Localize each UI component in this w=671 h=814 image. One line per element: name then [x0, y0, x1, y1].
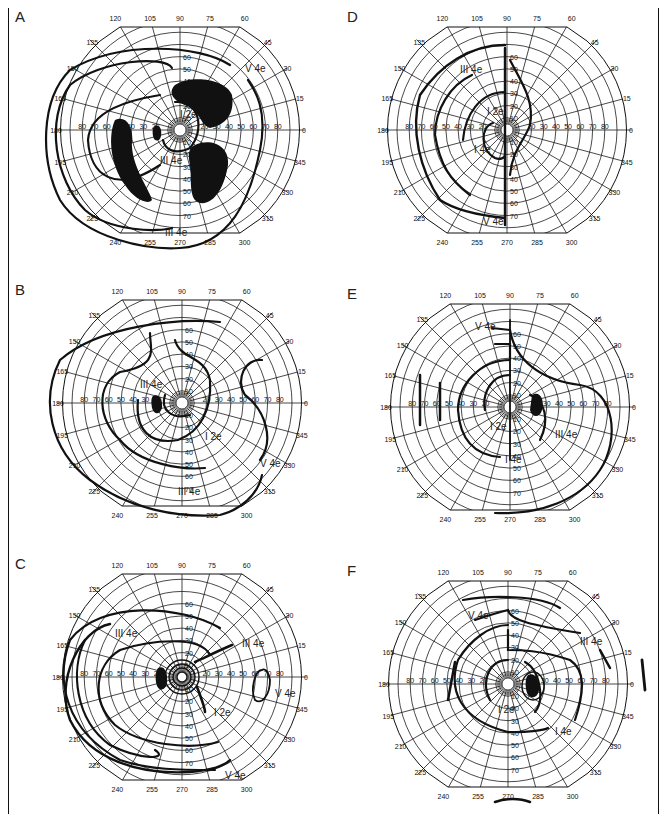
angle-label: 90 — [178, 288, 186, 295]
radial-label: 70 — [421, 400, 429, 407]
radial-label: 60 — [511, 608, 519, 615]
radial-label: 10 — [510, 139, 518, 146]
isopter-label: III 4e — [460, 64, 483, 75]
angle-label: 0 — [632, 404, 636, 411]
angle-label: 135 — [413, 39, 425, 46]
radial-label: 60 — [579, 400, 587, 407]
angle-label: 255 — [474, 516, 486, 523]
angle-label: 150 — [394, 65, 406, 72]
isopter-curve — [495, 799, 530, 802]
angle-label: 105 — [144, 15, 156, 22]
radial-label: 10 — [183, 139, 191, 146]
angle-label: 90 — [176, 15, 184, 22]
radial-label: 50 — [567, 400, 575, 407]
angle-label: 120 — [437, 569, 449, 576]
radial-label: 50 — [183, 188, 191, 195]
radial-label: 30 — [540, 123, 548, 130]
radial-label: 60 — [105, 670, 113, 677]
radial-label: 70 — [419, 677, 427, 684]
radial-label: 40 — [553, 677, 561, 684]
radial-label: 50 — [443, 677, 451, 684]
angle-label: 90 — [506, 292, 514, 299]
radial-label: 60 — [185, 327, 193, 334]
panel-b: 0153045607590105120135150165180195210225… — [52, 273, 312, 533]
angle-label: 330 — [612, 466, 624, 473]
radial-label: 60 — [510, 54, 518, 61]
radial-label: 70 — [590, 677, 598, 684]
angle-label: 45 — [591, 39, 599, 46]
angle-label: 300 — [569, 516, 581, 523]
radial-label: 40 — [225, 123, 233, 130]
radial-label: 80 — [276, 396, 284, 403]
angle-label: 240 — [437, 793, 449, 800]
radial-label: 20 — [513, 428, 521, 435]
radial-label: 20 — [203, 670, 211, 677]
radial-label: 60 — [249, 123, 257, 130]
angle-label: 270 — [176, 786, 188, 793]
angle-label: 15 — [296, 95, 304, 102]
angle-label: 75 — [208, 562, 216, 569]
angle-label: 165 — [382, 649, 394, 656]
radial-label: 70 — [418, 123, 426, 130]
radial-label: 50 — [513, 465, 521, 472]
radial-label: 40 — [455, 677, 463, 684]
isopter-label: III 4e — [242, 638, 265, 649]
isopter-label: III 4e — [580, 636, 603, 647]
angle-label: 15 — [298, 642, 306, 649]
radial-label: 30 — [513, 441, 521, 448]
angle-label: 180 — [52, 400, 64, 407]
radial-label: 50 — [565, 677, 573, 684]
charts-canvas: 0153045607590105120135150165180195210225… — [0, 0, 671, 814]
angle-label: 255 — [471, 239, 483, 246]
radial-label: 80 — [274, 123, 282, 130]
angle-label: 345 — [621, 159, 633, 166]
right-frame-border — [658, 8, 659, 814]
radial-label: 80 — [80, 396, 88, 403]
angle-label: 60 — [568, 15, 576, 22]
radial-label: 40 — [510, 78, 518, 85]
angle-label: 30 — [610, 65, 618, 72]
radial-label: 40 — [129, 670, 137, 677]
scotoma — [153, 126, 162, 141]
isopter-label: III 4e — [160, 155, 183, 166]
radial-label: 80 — [602, 677, 610, 684]
radial-label: 50 — [510, 188, 518, 195]
angle-label: 120 — [436, 15, 448, 22]
angle-label: 300 — [241, 512, 253, 519]
angle-label: 330 — [284, 462, 296, 469]
angle-label: 90 — [503, 15, 511, 22]
radial-label: 30 — [466, 123, 474, 130]
radial-label: 80 — [80, 670, 88, 677]
isopter-curve — [435, 75, 472, 195]
radial-label: 40 — [129, 396, 137, 403]
radial-label: 40 — [552, 123, 560, 130]
angle-label: 345 — [296, 706, 308, 713]
isopter-label: III 4e — [140, 379, 163, 390]
radial-label: 50 — [239, 670, 247, 677]
radial-label: 50 — [183, 66, 191, 73]
radial-label: 80 — [601, 123, 609, 130]
radial-label: 80 — [78, 123, 86, 130]
angle-label: 315 — [590, 769, 602, 776]
angle-label: 0 — [302, 127, 306, 134]
radial-label: 10 — [511, 693, 519, 700]
angle-label: 240 — [436, 239, 448, 246]
angle-label: 0 — [629, 127, 633, 134]
radial-label: 20 — [185, 698, 193, 705]
panel-a: 0153045607590105120135150165180195210225… — [50, 0, 310, 260]
angle-label: 315 — [264, 762, 276, 769]
radial-label: 20 — [511, 657, 519, 664]
radial-label: 40 — [511, 632, 519, 639]
isopter-label: V 4e — [225, 770, 246, 781]
angle-label: 105 — [474, 292, 486, 299]
angle-label: 45 — [594, 316, 602, 323]
angle-label: 165 — [381, 95, 393, 102]
radial-label: 40 — [511, 730, 519, 737]
angle-label: 345 — [294, 159, 306, 166]
radial-label: 10 — [510, 115, 518, 122]
left-frame-border — [8, 8, 9, 814]
isopter-label: III 4e — [115, 628, 138, 639]
angle-label: 135 — [414, 593, 426, 600]
radial-label: 30 — [510, 90, 518, 97]
radial-label: 60 — [510, 200, 518, 207]
